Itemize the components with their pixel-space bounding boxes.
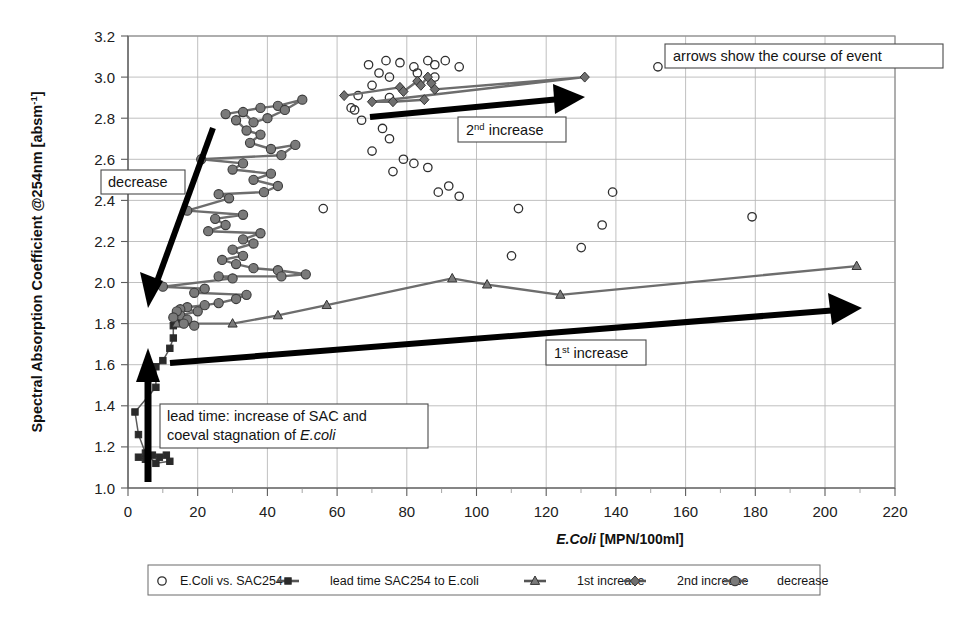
annotation-lead-time-line2: coeval stagnation of E.coli <box>167 427 336 443</box>
annotation-decrease: decrease <box>101 170 185 194</box>
y-tick-label: 1.4 <box>94 397 115 414</box>
x-tick-label: 200 <box>812 503 837 520</box>
data-point <box>277 272 286 281</box>
data-point <box>228 245 237 254</box>
data-point <box>256 130 265 139</box>
data-point <box>225 194 234 203</box>
data-point <box>221 109 230 118</box>
data-point <box>259 188 268 197</box>
data-point <box>231 116 240 125</box>
legend-label: lead time SAC254 to E.coli <box>330 574 479 588</box>
data-point <box>266 169 275 178</box>
x-tick-label: 40 <box>259 503 276 520</box>
data-point <box>249 239 258 248</box>
legend-marker <box>730 576 739 585</box>
data-point <box>228 274 237 283</box>
second-increase-tail: increase <box>485 122 544 138</box>
lead-time-line2-pre: coeval stagnation of <box>167 427 300 443</box>
data-point <box>256 229 265 238</box>
chart-legend: E.Coli vs. SAC254lead time SAC254 to E.c… <box>148 565 828 595</box>
data-point <box>249 118 258 127</box>
data-point <box>214 272 223 281</box>
chart-svg: 3.2 3.0 2.8 2.6 2.4 2.2 2.0 1.8 1.6 1.4 … <box>0 0 967 625</box>
y-axis-title-tail: ] <box>29 91 45 96</box>
legend-label: decrease <box>777 574 828 588</box>
y-axis-title-main: Spectral Absorption Coefficient @254nm [… <box>29 105 45 433</box>
y-tick-label: 1.8 <box>94 315 115 332</box>
data-point <box>211 214 220 223</box>
data-point <box>273 181 282 190</box>
data-point <box>167 345 173 351</box>
annotation-first-increase: 1st increase <box>546 340 646 365</box>
x-tick-label: 60 <box>329 503 346 520</box>
annotation-course-of-event: arrows show the course of event <box>665 44 943 68</box>
annotation-decrease-text: decrease <box>108 174 168 190</box>
y-axis-ticks <box>121 36 128 488</box>
x-tick-label: 220 <box>882 503 907 520</box>
data-point <box>200 284 209 293</box>
x-tick-label: 180 <box>743 503 768 520</box>
x-tick-label: 80 <box>398 503 415 520</box>
data-point <box>153 384 159 390</box>
y-tick-label: 1.6 <box>94 356 115 373</box>
data-point <box>163 452 169 458</box>
second-increase-num: 2 <box>466 122 474 138</box>
x-tick-label: 120 <box>534 503 559 520</box>
data-point <box>169 313 178 322</box>
data-point <box>153 460 159 466</box>
first-increase-num: 1 <box>554 345 562 361</box>
x-axis-title: E.Coli [MPN/100ml] <box>556 531 684 547</box>
data-point <box>190 321 199 330</box>
data-point <box>238 159 247 168</box>
data-point <box>263 114 272 123</box>
data-point <box>280 105 289 114</box>
annotation-lead-time: lead time: increase of SAC and coeval st… <box>160 404 428 448</box>
data-point <box>135 454 141 460</box>
data-point <box>214 190 223 199</box>
chart-figure: 3.2 3.0 2.8 2.6 2.4 2.2 2.0 1.8 1.6 1.4 … <box>0 0 967 625</box>
x-tick-label: 0 <box>124 503 132 520</box>
data-point <box>242 126 251 135</box>
y-tick-label: 1.2 <box>94 438 115 455</box>
data-point <box>238 210 247 219</box>
data-point <box>135 431 141 437</box>
y-tick-label: 3.0 <box>94 69 115 86</box>
data-point <box>193 307 202 316</box>
y-tick-label: 2.0 <box>94 274 115 291</box>
data-point <box>249 264 258 273</box>
data-point <box>301 270 310 279</box>
y-tick-label: 2.6 <box>94 151 115 168</box>
x-axis-title-italic: E.Coli <box>556 531 597 547</box>
data-point <box>266 144 275 153</box>
x-axis-title-rest: [MPN/100ml] <box>596 531 684 547</box>
data-point <box>277 151 286 160</box>
y-tick-label: 2.8 <box>94 110 115 127</box>
first-increase-tail: increase <box>569 345 628 361</box>
data-point <box>204 227 213 236</box>
annotation-course-of-event-text: arrows show the course of event <box>673 48 882 64</box>
data-point <box>179 319 188 328</box>
data-point <box>218 255 227 264</box>
y-tick-label: 1.0 <box>94 480 115 497</box>
data-point <box>238 235 247 244</box>
data-point <box>214 298 223 307</box>
data-point <box>167 458 173 464</box>
annotation-lead-time-line1: lead time: increase of SAC and <box>167 408 367 424</box>
data-point <box>156 454 162 460</box>
data-point <box>245 138 254 147</box>
data-point <box>256 103 265 112</box>
data-point <box>238 107 247 116</box>
x-axis-ticks <box>128 488 895 496</box>
data-point <box>170 335 176 341</box>
annotation-second-increase: 2nd increase <box>458 117 566 142</box>
legend-marker <box>285 578 291 584</box>
y-tick-label: 2.2 <box>94 233 115 250</box>
data-point <box>298 95 307 104</box>
data-point <box>242 290 251 299</box>
data-point <box>132 409 138 415</box>
x-tick-label: 20 <box>189 503 206 520</box>
data-point <box>221 220 230 229</box>
y-axis-tick-labels: 3.2 3.0 2.8 2.6 2.4 2.2 2.0 1.8 1.6 1.4 … <box>94 28 115 497</box>
data-point <box>160 357 166 363</box>
x-tick-label: 160 <box>673 503 698 520</box>
